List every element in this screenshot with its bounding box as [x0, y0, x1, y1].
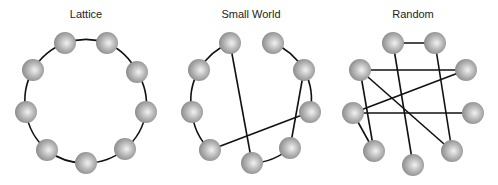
node-top-left [382, 32, 404, 54]
node-lower-left [363, 140, 385, 162]
node-top-right [96, 32, 118, 54]
node-upper-right [126, 61, 148, 83]
node-top-right [262, 32, 284, 54]
node-upper-right [293, 59, 315, 81]
node-lower-left [36, 139, 58, 161]
node-right [135, 101, 157, 123]
node-left [15, 101, 37, 123]
node-left [342, 102, 364, 124]
node-bottom [402, 154, 424, 176]
node-upper-left [22, 59, 44, 81]
node-top-left [219, 32, 241, 54]
node-right [299, 101, 321, 123]
node-bottom [241, 152, 263, 174]
edge-top-left-to-bottom [393, 43, 413, 165]
node-upper-left [349, 59, 371, 81]
node-lower-right [441, 140, 463, 162]
node-lower-right [114, 138, 136, 160]
edge-upper-right-to-left [353, 70, 466, 113]
node-bottom [75, 152, 97, 174]
panel-title-random: Random [392, 8, 434, 20]
node-lower-right [279, 137, 301, 159]
panel-lattice: Lattice [15, 8, 157, 174]
node-upper-left [188, 59, 210, 81]
node-top-left [54, 32, 76, 54]
node-left [181, 101, 203, 123]
panel-title-lattice: Lattice [70, 8, 102, 20]
panel-small-world: Small World [181, 8, 321, 174]
panel-title-small-world: Small World [221, 8, 280, 20]
network-comparison-figure: Lattice Small World Random [0, 0, 498, 185]
edge-top-left-to-bottom [230, 43, 252, 163]
node-top-right [424, 32, 446, 54]
node-lower-left [199, 139, 221, 161]
panel-random: Random [342, 8, 484, 176]
edge-upper-left-to-lower-right [360, 70, 452, 151]
node-upper-right [455, 59, 477, 81]
node-right [462, 102, 484, 124]
edge-top-right-to-lower-right [435, 43, 452, 151]
